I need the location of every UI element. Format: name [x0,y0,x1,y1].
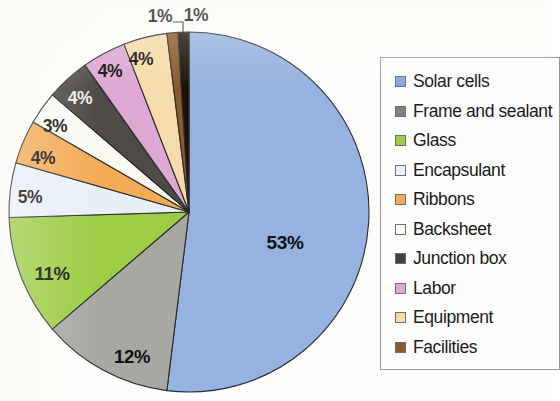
legend-swatch-icon [395,253,406,264]
slice-percent-label: 4% [98,61,123,82]
legend-item[interactable]: Ribbons [395,185,559,215]
legend-item-label: Glass [413,132,456,150]
legend-item-label: Utilities [413,368,466,370]
legend-swatch-icon [395,342,406,353]
legend-item[interactable]: Frame and sealant [395,97,559,127]
legend-item[interactable]: Solar cells [395,67,559,97]
pie-svg [0,0,380,401]
slice-percent-label: 4% [31,148,56,169]
slice-percent-label: 4% [129,49,154,70]
legend-item-label: Equipment [413,309,493,327]
legend-swatch-icon [395,283,406,294]
slice-percent-label: 11% [34,263,69,285]
slice-percent-label: 5% [18,187,43,208]
legend-item[interactable]: Junction box [395,244,559,274]
slice-percent-label: 3% [43,116,68,137]
slice-percent-label: 1% [148,6,173,27]
legend-swatch-icon [395,194,406,205]
legend-swatch-icon [395,135,406,146]
pie-plot-area: 53%12%11%5%4%3%4%4%4%1%1% [0,0,380,401]
legend-swatch-icon [395,224,406,235]
slice-percent-label: 1% [184,5,209,26]
legend-item-label: Ribbons [413,191,474,209]
legend-item-label: Frame and sealant [413,103,552,121]
pie-slice[interactable] [167,32,369,392]
slice-percent-label: 53% [266,232,303,254]
legend-swatch-icon [395,76,406,87]
legend-item[interactable]: Labor [395,274,559,304]
legend-item-label: Solar cells [413,73,489,91]
legend-swatch-icon [395,165,406,176]
slice-percent-label: 4% [68,88,93,109]
legend-item-label: Facilities [413,339,477,357]
legend-item[interactable]: Equipment [395,303,559,333]
legend-swatch-icon [395,312,406,323]
legend-item-label: Encapsulant [413,162,505,180]
legend-item[interactable]: Backsheet [395,215,559,245]
legend-item[interactable]: Glass [395,126,559,156]
legend-item-label: Junction box [413,250,506,268]
legend-item-label: Backsheet [413,221,491,239]
leader-line-utilities [173,22,183,33]
legend-item[interactable]: Encapsulant [395,156,559,186]
slice-percent-label: 12% [114,346,150,368]
legend-item[interactable]: Facilities [395,333,559,363]
legend-item[interactable]: Utilities [395,362,559,370]
chart-legend: Solar cellsFrame and sealantGlassEncapsu… [380,57,560,370]
legend-item-label: Labor [413,280,456,298]
legend-swatch-icon [395,106,406,117]
